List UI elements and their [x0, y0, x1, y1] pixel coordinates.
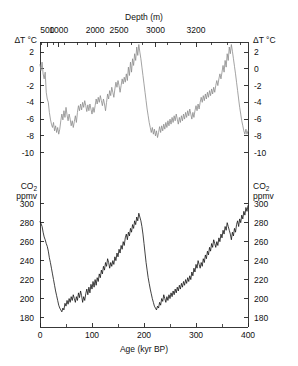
plot-canvas: [0, 0, 298, 366]
temperature-anomaly-curve: [40, 45, 248, 138]
vostok-ice-core-figure: Depth (m) 50010002000250030003200 ΔT °C …: [0, 0, 298, 366]
co2-concentration-curve: [40, 206, 248, 312]
